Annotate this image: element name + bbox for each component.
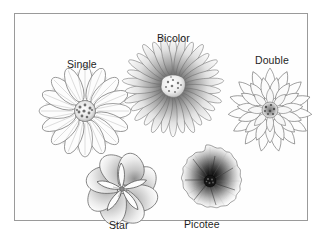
bicolor-petals: [122, 35, 224, 137]
flower-figure-bicolor: [119, 39, 231, 147]
star-center: [120, 187, 125, 192]
figure-label-single: Single: [67, 59, 97, 70]
star-petals: [82, 149, 162, 229]
figure-label-picotee: Picotee: [184, 219, 220, 230]
illustration-plate: Single Bicolor Double Star Picotee: [0, 0, 324, 237]
figure-label-bicolor: Bicolor: [157, 33, 190, 44]
plate-frame: Single Bicolor Double Star Picotee: [14, 13, 308, 221]
figure-label-double: Double: [255, 55, 289, 66]
figure-label-star: Star: [109, 220, 129, 231]
single-petals: [39, 65, 131, 157]
picotee-bloom: [176, 145, 244, 215]
flower-figure-picotee: [163, 140, 253, 230]
picotee-center: [204, 175, 216, 187]
